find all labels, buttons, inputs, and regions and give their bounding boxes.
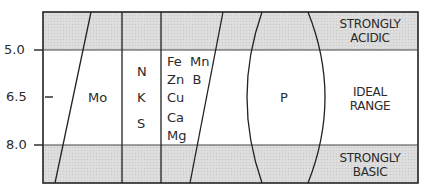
zone-basic-line1: STRONGLY bbox=[339, 151, 401, 165]
nutrient-mg: Mg bbox=[167, 128, 186, 143]
tick-label-8-0: 8.0 bbox=[6, 137, 27, 152]
nutrient-n: N bbox=[137, 64, 147, 79]
nutrient-s: S bbox=[137, 116, 145, 131]
zone-acidic-line1: STRONGLY bbox=[339, 17, 401, 31]
nutrient-fe-mn: Fe Mn bbox=[167, 54, 210, 69]
zone-basic-line2: BASIC bbox=[353, 165, 387, 179]
nutrient-mo: Mo bbox=[88, 90, 107, 105]
zone-ideal-line1: IDEAL bbox=[353, 85, 387, 99]
nutrient-cu: Cu bbox=[167, 90, 184, 105]
nutrient-p: P bbox=[280, 90, 288, 105]
nutrient-k: K bbox=[137, 90, 146, 105]
ph-nutrient-diagram: 5.0 6.5 8.0 Mo N K S Fe Mn Zn B Cu Ca Mg… bbox=[0, 0, 431, 195]
tick-label-5-0: 5.0 bbox=[4, 42, 25, 57]
zone-ideal-line2: RANGE bbox=[350, 99, 390, 113]
zone-acidic-line2: ACIDIC bbox=[350, 31, 389, 45]
tick-label-6-5: 6.5 bbox=[6, 89, 27, 104]
nutrient-zn-b: Zn B bbox=[167, 72, 201, 87]
nutrient-ca: Ca bbox=[167, 110, 184, 125]
